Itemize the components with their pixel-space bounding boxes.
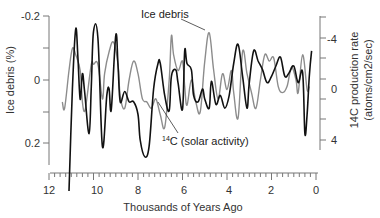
c14-superscript: 14 (162, 135, 170, 142)
x-axis: 12 10 8 6 4 2 0 Thousands of Years Ago (43, 173, 319, 213)
x-tick-label: 2 (268, 184, 274, 196)
x-minor-ticks (49, 173, 316, 180)
right-tick-label: 0 (331, 83, 337, 95)
x-tick-label: 10 (91, 184, 103, 196)
right-y-axis: -4 0 4 14C production rate (atoms/cm2/se… (320, 16, 374, 150)
left-tick-label: 0 (34, 74, 40, 86)
ice-debris-annotation: Ice debris (141, 8, 189, 20)
right-axis-title-line1: 14C production rate (348, 32, 360, 129)
x-axis-title: Thousands of Years Ago (123, 201, 242, 213)
c14-annotation: 14C (solar activity) (162, 135, 249, 147)
x-tick-label: 8 (135, 184, 141, 196)
x-tick-label: 4 (226, 184, 232, 196)
right-tick-label: -4 (327, 33, 337, 45)
x-tick-label: 0 (313, 184, 319, 196)
x-tick-label: 6 (181, 184, 187, 196)
chart-figure: -0.2 0 0.2 Ice debris (%) -4 0 4 14C pro… (0, 0, 380, 218)
left-tick-label: 0.2 (25, 137, 40, 149)
left-tick-label: -0.2 (21, 10, 40, 22)
ice-debris-leader-line (181, 19, 205, 30)
right-tick-label: 4 (331, 134, 337, 146)
c14-label: C (solar activity) (170, 135, 249, 147)
left-axis-title: Ice debris (%) (4, 46, 16, 114)
plot-area (62, 24, 311, 191)
left-y-axis: -0.2 0 0.2 Ice debris (%) (4, 10, 49, 165)
right-axis-title-line2: (atoms/cm2/sec) (362, 39, 374, 120)
c14-solar-activity-line (69, 24, 312, 191)
x-tick-label: 12 (43, 184, 55, 196)
